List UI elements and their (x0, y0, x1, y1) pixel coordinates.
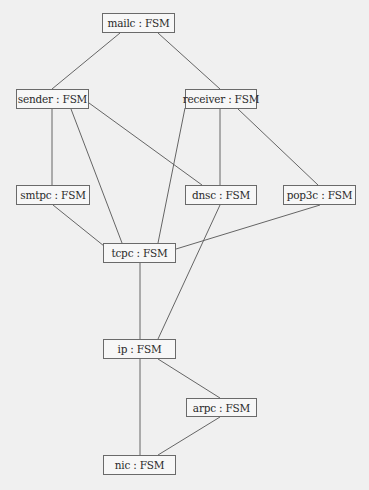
edge-pop3c-tcpc (176, 205, 320, 249)
edge-sender-dnsc (89, 103, 202, 185)
node-smtpc: smtpc : FSM (16, 185, 90, 205)
diagram-canvas: mailc : FSM sender : FSM receiver : FSM … (0, 0, 369, 490)
edge-receiver-tcpc (158, 108, 185, 243)
node-arpc: arpc : FSM (186, 398, 257, 417)
edge-mailc-sender (52, 33, 120, 89)
node-pop3c: pop3c : FSM (283, 185, 356, 205)
node-mailc: mailc : FSM (102, 13, 175, 33)
edge-receiver-pop3c (238, 109, 318, 185)
edges-layer (0, 0, 369, 490)
node-tcpc: tcpc : FSM (103, 243, 176, 263)
edge-sender-tcpc (71, 109, 122, 243)
node-sender: sender : FSM (16, 89, 89, 109)
node-dnsc: dnsc : FSM (185, 185, 257, 205)
node-ip: ip : FSM (103, 339, 176, 359)
node-nic: nic : FSM (103, 455, 176, 475)
edge-smtpc-tcpc (53, 205, 104, 246)
node-receiver: receiver : FSM (185, 89, 257, 109)
edge-mailc-receiver (158, 33, 220, 89)
edge-arpc-nic (158, 417, 220, 455)
edge-ip-arpc (158, 359, 220, 398)
edge-dnsc-ip (158, 205, 220, 339)
